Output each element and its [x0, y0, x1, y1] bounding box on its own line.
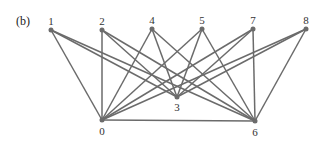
node-label-2: 2 [99, 16, 105, 27]
node-7 [251, 27, 256, 32]
graph-figure: (b) 124578306 [0, 0, 319, 142]
node-label-4: 4 [149, 15, 155, 26]
node-2 [100, 28, 105, 33]
edge-7-6 [253, 29, 255, 121]
edge-4-0 [102, 29, 152, 120]
node-label-8: 8 [303, 15, 309, 26]
node-label-3: 3 [174, 102, 180, 113]
edge-5-6 [202, 29, 255, 121]
node-5 [200, 27, 205, 32]
node-4 [150, 27, 155, 32]
node-3 [175, 95, 180, 100]
node-label-1: 1 [48, 16, 54, 27]
edge-0-6 [102, 120, 255, 121]
node-1 [49, 28, 54, 33]
node-label-7: 7 [250, 15, 256, 26]
node-0 [100, 118, 105, 123]
node-label-6: 6 [252, 127, 258, 138]
node-6 [253, 119, 258, 124]
node-8 [304, 27, 309, 32]
node-label-0: 0 [99, 126, 105, 137]
node-label-5: 5 [199, 15, 205, 26]
edge-8-0 [102, 29, 306, 120]
